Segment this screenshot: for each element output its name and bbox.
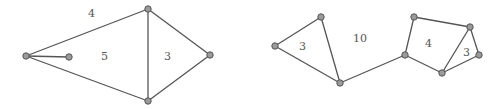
- vertex: [145, 98, 151, 104]
- edge: [470, 27, 479, 55]
- vertex: [145, 6, 151, 12]
- edge: [275, 46, 340, 83]
- edge: [26, 9, 148, 56]
- edge: [26, 56, 69, 57]
- vertex: [402, 52, 408, 58]
- graph-right: 31043: [272, 14, 482, 86]
- vertex: [337, 80, 343, 86]
- edge: [405, 17, 414, 55]
- vertex: [467, 24, 473, 30]
- graph-left: 453: [23, 6, 213, 104]
- edge: [148, 55, 210, 101]
- vertex: [318, 14, 324, 20]
- vertex: [272, 43, 278, 49]
- face-degree-label: 10: [353, 32, 367, 45]
- vertex: [66, 54, 72, 60]
- vertex: [476, 52, 482, 58]
- edge: [414, 17, 470, 27]
- face-degree-label: 4: [88, 7, 95, 20]
- face-degree-label: 4: [425, 37, 432, 50]
- vertex: [411, 14, 417, 20]
- vertex: [207, 52, 213, 58]
- edge: [340, 55, 405, 83]
- edge: [26, 56, 148, 101]
- face-degree-label: 5: [101, 50, 108, 63]
- graph-drawing: 45331043: [0, 0, 502, 109]
- planar-graphs-diagram: 45331043: [0, 0, 502, 109]
- edge: [405, 55, 442, 73]
- edge: [275, 17, 321, 46]
- edge: [148, 9, 210, 55]
- face-degree-label: 3: [299, 40, 306, 53]
- face-degree-label: 3: [463, 46, 470, 59]
- vertex: [23, 53, 29, 59]
- face-degree-label: 3: [164, 50, 171, 63]
- vertex: [439, 70, 445, 76]
